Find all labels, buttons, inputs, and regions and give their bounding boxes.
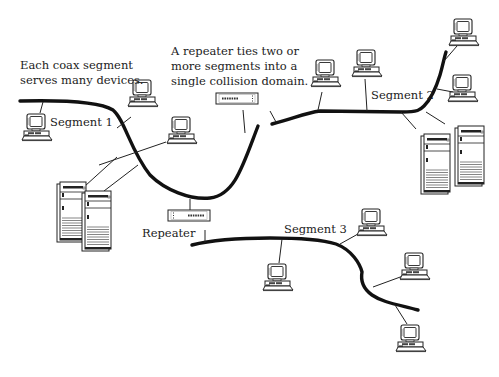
repeater-note-line-1: A repeater ties two or — [171, 44, 308, 59]
repeater-label: Repeater — [142, 226, 195, 241]
workstation-s2-d — [448, 75, 478, 102]
repeater-note-line-3: single collision domain. — [171, 74, 308, 89]
repeater-note-line-2: more segments into a — [171, 59, 308, 74]
workstation-s2-a — [311, 60, 341, 87]
workstation-s3-a — [263, 264, 293, 291]
segment-3-label: Segment 3 — [284, 222, 347, 237]
workstation-s3-b — [357, 209, 387, 236]
workstation-s2-b — [352, 50, 382, 77]
repeater-upper — [216, 93, 258, 104]
workstation-s3-c — [400, 253, 430, 280]
coax-note-line-2: serves many devices. — [20, 73, 144, 88]
workstation-s1-c — [167, 117, 197, 144]
server-s1-b — [82, 191, 111, 251]
coax-note: Each coax segment serves many devices. — [20, 58, 144, 88]
repeater-note: A repeater ties two or more segments int… — [171, 44, 308, 89]
coax-note-line-1: Each coax segment — [20, 58, 144, 73]
workstation-s2-c — [449, 19, 479, 46]
server-s2-a — [421, 134, 450, 194]
workstation-s1-a — [22, 114, 52, 141]
segment-2-label: Segment 2 — [371, 88, 434, 103]
repeater-lower — [168, 210, 210, 221]
ethernet-repeater-diagram: Each coax segment serves many devices. A… — [0, 0, 499, 377]
server-s2-b — [455, 126, 484, 186]
segment-1-label: Segment 1 — [50, 115, 113, 130]
workstation-s3-d — [396, 325, 426, 352]
segment-3-cable — [192, 238, 418, 310]
